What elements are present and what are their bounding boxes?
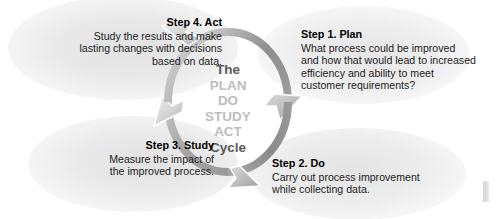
step-study: Step 3. Study Measure the impact of the … [34, 139, 214, 178]
step-plan-body: What process could be improved and how t… [301, 42, 497, 92]
step-act-body: Study the results and make lasting chang… [8, 30, 222, 68]
step-study-title: Step 3. Study [34, 139, 214, 152]
step-plan: Step 1. Plan What process could be impro… [301, 28, 497, 92]
step-act-title: Step 4. Act [8, 16, 222, 29]
step-do-title: Step 2. Do [272, 157, 472, 170]
step-do: Step 2. Do Carry out process improvement… [272, 157, 472, 196]
edge-scroll-sliver [483, 181, 489, 202]
step-act: Step 4. Act Study the results and make l… [8, 16, 222, 67]
pdsa-cycle-diagram: The PLAN DO STUDY ACT Cycle Step 4. Act … [0, 0, 499, 219]
step-do-body: Carry out process improvement while coll… [272, 171, 472, 196]
step-plan-title: Step 1. Plan [301, 28, 497, 41]
step-study-body: Measure the impact of the improved proce… [34, 153, 214, 178]
